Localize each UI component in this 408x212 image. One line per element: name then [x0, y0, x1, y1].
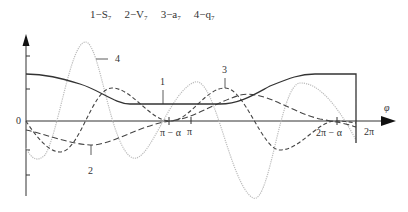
x-axis-arrow-icon [381, 116, 396, 126]
chart-plot [0, 0, 408, 212]
curve-label-leaders [91, 59, 225, 155]
curve-label-2: 2 [88, 165, 93, 176]
origin-label: 0 [16, 115, 21, 126]
curve-label-4: 4 [115, 53, 120, 64]
curve-label-3: 3 [222, 64, 227, 75]
curve-label-1: 1 [160, 76, 165, 87]
x-tick-pi-minus-alpha: π − α [160, 127, 181, 138]
x-tick-2pi: 2π [364, 126, 374, 137]
x-tick-pi: π [187, 126, 192, 137]
y-axis-arrow-icon [23, 34, 30, 46]
x-tick-2pi-minus-alpha: 2π − α [316, 127, 342, 138]
x-axis-label: φ [384, 102, 390, 113]
